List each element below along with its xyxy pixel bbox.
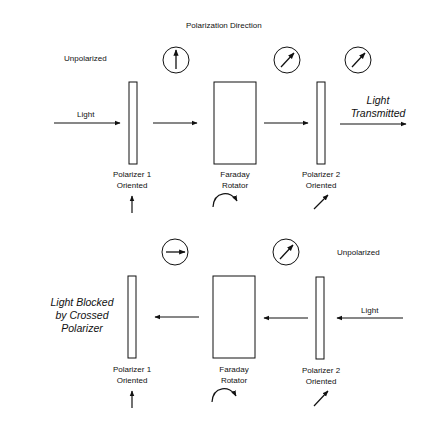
polarizer-1-sublabel: Oriented — [102, 181, 162, 191]
polarization-circle-diagonal-icon — [273, 239, 299, 265]
polarizer-2-label: Polarizer 2 — [291, 170, 351, 180]
polarizer-2 — [317, 82, 325, 164]
light-label: Light — [361, 306, 378, 316]
polarizer-1-label: Polarizer 1 — [102, 170, 162, 180]
diagonal-orientation-arrow-icon — [314, 195, 328, 209]
polarization-circle-diagonal-icon — [274, 47, 300, 73]
faraday-rotator — [213, 276, 255, 358]
blocked-label-line2: by Crossed — [40, 309, 124, 321]
rotator-label: Faraday — [204, 365, 264, 375]
unpolarized-label: Unpolarized — [337, 248, 380, 258]
rotator-sublabel: Rotator — [205, 181, 265, 191]
light-label: Light — [77, 110, 94, 120]
blocked-label-line1: Light Blocked — [40, 296, 124, 308]
transmitted-label-line2: Transmitted — [344, 107, 412, 119]
polarizer-1-sublabel: Oriented — [102, 376, 162, 386]
polarizer-2-sublabel: Oriented — [291, 377, 351, 387]
clockwise-rotation-arrow-icon — [212, 389, 236, 402]
polarization-circle-diagonal-icon — [345, 47, 371, 73]
transmitted-label-line1: Light — [344, 94, 412, 106]
rotator-sublabel: Rotator — [204, 376, 264, 386]
polarization-circle-vertical-icon — [163, 47, 189, 73]
clockwise-rotation-arrow-icon — [213, 194, 237, 207]
diagonal-orientation-arrow-icon — [314, 391, 328, 406]
polarizer-1-label: Polarizer 1 — [102, 365, 162, 375]
polarization-circle-horizontal-icon — [162, 239, 188, 265]
blocked-label-line3: Polarizer — [40, 322, 124, 334]
rotator-label: Faraday — [205, 170, 265, 180]
faraday-rotator — [214, 82, 256, 164]
diagram-title: Polarization Direction — [186, 21, 262, 31]
unpolarized-label: Unpolarized — [64, 54, 107, 64]
polarizer-2 — [316, 277, 324, 359]
polarizer-1 — [129, 82, 137, 164]
polarizer-2-label: Polarizer 2 — [291, 366, 351, 376]
polarizer-1 — [128, 276, 136, 358]
polarizer-2-sublabel: Oriented — [291, 181, 351, 191]
